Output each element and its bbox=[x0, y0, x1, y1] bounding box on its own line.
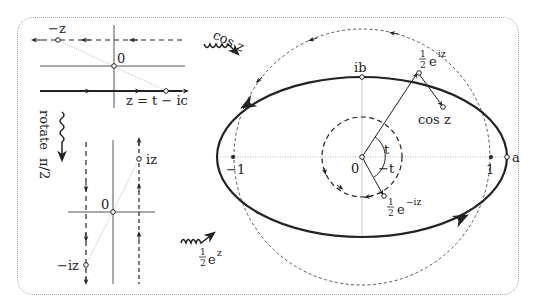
angle-neg-t-label: −t bbox=[378, 161, 395, 176]
neg-iz-label: −iz bbox=[57, 258, 79, 273]
line-label: z = t − ic bbox=[126, 93, 188, 108]
right-panel: 0 ib −1 1 a cos z t −t 1 2 e iz 1 2 e −i… bbox=[217, 29, 520, 285]
exp-exponent: −iz bbox=[406, 197, 421, 207]
arrow-ccw-icon bbox=[392, 33, 398, 34]
a-point bbox=[505, 155, 510, 160]
origin-label: 0 bbox=[117, 51, 125, 66]
iz-label: iz bbox=[146, 152, 157, 167]
exp-func: e bbox=[429, 54, 437, 69]
cos-z-point bbox=[441, 105, 446, 110]
exp-exponent: z bbox=[217, 248, 222, 258]
exp-func: e bbox=[397, 202, 405, 217]
half-e-neg-iz-point bbox=[382, 194, 387, 199]
frac-num: 1 bbox=[420, 49, 426, 59]
exp-func: e bbox=[208, 252, 216, 267]
iz-point bbox=[137, 157, 142, 162]
half-e-iz-point bbox=[417, 71, 422, 76]
origin-label: 0 bbox=[101, 197, 109, 212]
cos-label: cos z bbox=[211, 27, 247, 55]
a-label: a bbox=[512, 150, 520, 165]
neg-one-point bbox=[231, 155, 235, 159]
diagram-canvas: −z 0 z = t − ic rotate π/2 iz 0 −iz 1 2 bbox=[0, 0, 534, 308]
frac-num: 1 bbox=[388, 197, 394, 207]
exp-exponent: iz bbox=[438, 49, 446, 59]
ib-point bbox=[360, 75, 365, 80]
squiggle-arrow-icon bbox=[181, 233, 214, 243]
origin-point bbox=[360, 155, 365, 160]
squiggle-arrow-icon bbox=[60, 112, 64, 160]
arrow-cw-icon bbox=[367, 196, 372, 197]
bottom-left-panel: iz 0 −iz bbox=[57, 140, 157, 284]
neg-one-label: −1 bbox=[226, 162, 245, 177]
neg-iz-point bbox=[84, 263, 89, 268]
frac-num: 1 bbox=[200, 247, 206, 257]
cos-step: cos z bbox=[204, 27, 247, 55]
exp-step: 1 2 e z bbox=[181, 233, 222, 268]
neg-z-label: −z bbox=[48, 21, 66, 36]
frac-den: 2 bbox=[388, 208, 394, 218]
cos-z-label: cos z bbox=[418, 112, 451, 127]
rotate-step: rotate π/2 bbox=[37, 110, 64, 179]
ib-label: ib bbox=[354, 60, 366, 75]
origin-label: 0 bbox=[351, 161, 359, 176]
frac-den: 2 bbox=[200, 258, 206, 268]
origin-point bbox=[112, 64, 117, 69]
rotate-angle-label: π/2 bbox=[37, 158, 52, 179]
neg-z-point bbox=[56, 38, 61, 43]
angle-t-label: t bbox=[384, 142, 390, 157]
frac-den: 2 bbox=[420, 60, 426, 70]
rotate-label: rotate bbox=[37, 110, 52, 150]
arrow-cw-icon bbox=[337, 185, 341, 188]
top-left-panel: −z 0 z = t − ic bbox=[34, 21, 188, 108]
one-label: 1 bbox=[486, 162, 494, 177]
origin-point bbox=[111, 210, 116, 215]
one-point bbox=[489, 155, 493, 159]
